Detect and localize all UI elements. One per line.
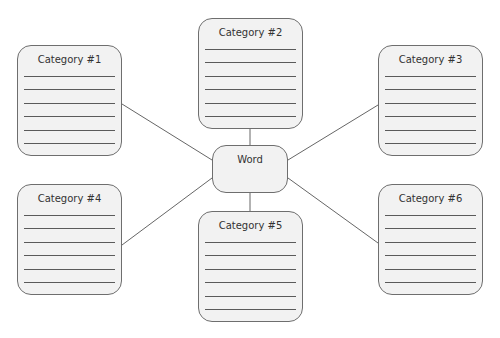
writing-line[interactable] — [385, 103, 476, 104]
writing-line[interactable] — [205, 62, 296, 63]
writing-line[interactable] — [205, 282, 296, 283]
writing-line[interactable] — [385, 255, 476, 256]
category-title: Category #4 — [18, 193, 121, 204]
writing-line[interactable] — [24, 255, 115, 256]
writing-line[interactable] — [385, 116, 476, 117]
category-box-2: Category #2 — [198, 18, 303, 129]
center-word-box: Word — [212, 145, 288, 193]
writing-line[interactable] — [24, 143, 115, 144]
writing-line[interactable] — [24, 282, 115, 283]
center-word-label: Word — [213, 154, 287, 165]
writing-line[interactable] — [205, 242, 296, 243]
category-title: Category #3 — [379, 54, 482, 65]
writing-line[interactable] — [205, 103, 296, 104]
writing-line[interactable] — [385, 130, 476, 131]
writing-line[interactable] — [24, 228, 115, 229]
writing-line[interactable] — [24, 103, 115, 104]
writing-line[interactable] — [205, 269, 296, 270]
writing-line[interactable] — [24, 130, 115, 131]
category-box-4: Category #4 — [17, 184, 122, 295]
category-box-5: Category #5 — [198, 211, 303, 322]
category-title: Category #6 — [379, 193, 482, 204]
category-box-3: Category #3 — [378, 45, 483, 156]
category-title: Category #5 — [199, 220, 302, 231]
category-title: Category #2 — [199, 27, 302, 38]
writing-line[interactable] — [205, 49, 296, 50]
writing-line[interactable] — [385, 215, 476, 216]
writing-line[interactable] — [385, 143, 476, 144]
writing-line[interactable] — [24, 116, 115, 117]
writing-line[interactable] — [205, 255, 296, 256]
writing-line[interactable] — [205, 116, 296, 117]
writing-line[interactable] — [385, 89, 476, 90]
writing-line[interactable] — [24, 269, 115, 270]
writing-line[interactable] — [205, 309, 296, 310]
writing-line[interactable] — [385, 242, 476, 243]
category-box-1: Category #1 — [17, 45, 122, 156]
writing-line[interactable] — [385, 282, 476, 283]
category-title: Category #1 — [18, 54, 121, 65]
writing-line[interactable] — [24, 76, 115, 77]
writing-line[interactable] — [385, 269, 476, 270]
writing-line[interactable] — [24, 215, 115, 216]
writing-line[interactable] — [385, 228, 476, 229]
writing-line[interactable] — [385, 76, 476, 77]
writing-line[interactable] — [205, 296, 296, 297]
writing-line[interactable] — [205, 89, 296, 90]
writing-line[interactable] — [24, 242, 115, 243]
writing-line[interactable] — [205, 76, 296, 77]
writing-line[interactable] — [24, 89, 115, 90]
category-box-6: Category #6 — [378, 184, 483, 295]
